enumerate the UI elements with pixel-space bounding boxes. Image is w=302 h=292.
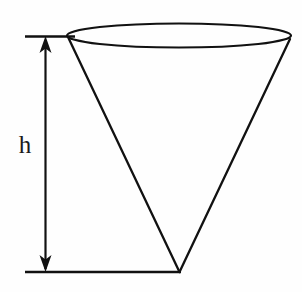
- cone-left-slant: [68, 37, 180, 272]
- cone-figure: h: [0, 0, 302, 292]
- height-label: h: [12, 131, 38, 159]
- cone-diagram-svg: [0, 0, 302, 292]
- cone-right-slant: [180, 39, 291, 272]
- cone-rim-ellipse: [67, 24, 291, 48]
